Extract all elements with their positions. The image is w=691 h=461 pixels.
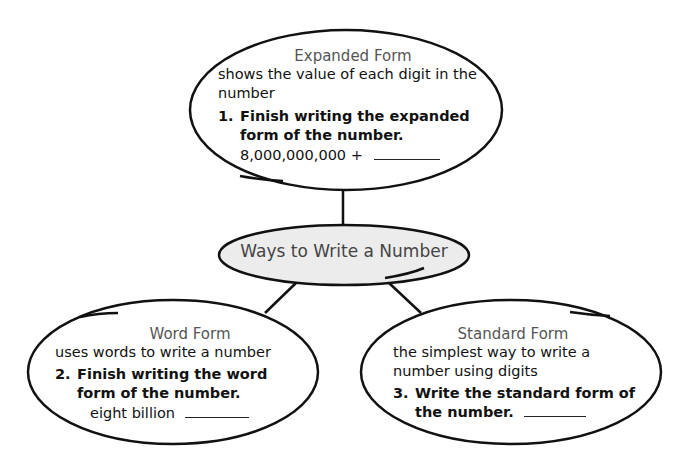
word-form-given-value: eight billion xyxy=(90,405,175,421)
word-form-task: 2. Finish writing the word form of the n… xyxy=(55,365,305,403)
expanded-form-answer-row: 8,000,000,000 + xyxy=(218,145,488,165)
expanded-form-task: 1. Finish writing the expanded form of t… xyxy=(218,107,488,145)
expanded-form-description: shows the value of each digit in the num… xyxy=(218,65,488,103)
edge-center-to-standard xyxy=(388,282,421,313)
word-form-answer-blank[interactable] xyxy=(185,405,249,418)
task-number: 3. xyxy=(393,384,415,422)
standard-form-content: Standard Form the simplest way to write … xyxy=(393,325,643,422)
edge-center-to-word xyxy=(265,282,297,313)
center-title: Ways to Write a Number xyxy=(219,241,469,261)
task-text: Finish writing the word form of the numb… xyxy=(77,365,305,403)
word-form-heading: Word Form xyxy=(55,325,305,343)
task-text: Write the standard form of the number. xyxy=(415,384,643,422)
word-form-answer-row: eight billion xyxy=(55,403,305,423)
standard-form-task: 3. Write the standard form of the number… xyxy=(393,384,643,422)
task-text: Finish writing the expanded form of the … xyxy=(240,107,488,145)
standard-form-heading: Standard Form xyxy=(393,325,643,343)
expanded-form-answer-blank[interactable] xyxy=(374,147,440,160)
standard-form-answer-blank[interactable] xyxy=(524,404,586,417)
word-form-content: Word Form uses words to write a number 2… xyxy=(55,325,305,423)
task-number: 2. xyxy=(55,365,77,403)
task-number: 1. xyxy=(218,107,240,145)
expanded-form-heading: Expanded Form xyxy=(218,47,488,65)
standard-form-description: the simplest way to write a number using… xyxy=(393,343,608,381)
expanded-form-content: Expanded Form shows the value of each di… xyxy=(218,47,488,165)
expanded-form-given-value: 8,000,000,000 + xyxy=(240,147,363,163)
word-form-description: uses words to write a number xyxy=(55,343,305,362)
